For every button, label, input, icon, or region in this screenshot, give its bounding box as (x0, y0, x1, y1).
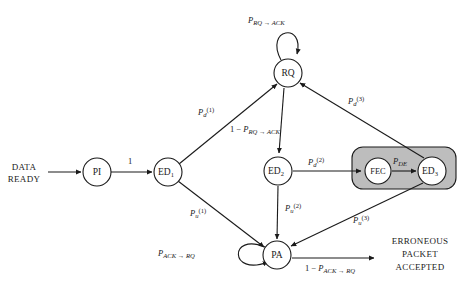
edge-label-ed3-to-pa: Pu(3) (352, 214, 369, 227)
edge-label-rq-to-ed2: 1 − PRQ → ACK (230, 124, 280, 135)
svg-text:1 − PRQ → ACK: 1 − PRQ → ACK (230, 124, 280, 135)
edge-ed1-to-rq (179, 84, 277, 164)
edge-label-pi-to-ed1: 1 (128, 156, 132, 166)
edge-ed2-to-pa (277, 186, 278, 239)
edge-rq-to-ed2 (279, 88, 284, 153)
node-ed3[interactable]: ED3 (418, 157, 446, 185)
edge-label-pa-to-erroneous: 1 − PACK → RQ (305, 263, 355, 274)
edge-label-ed2-to-pa: Pu(2) (284, 202, 301, 215)
edge-label-ed3-to-rq: Pd(3) (347, 95, 364, 108)
data-ready-line1: DATA (12, 162, 37, 172)
edge-rq-self-loop (277, 33, 298, 60)
svg-text:Pu(1): Pu(1) (189, 207, 206, 220)
edge-label-pa-to-erroneous-prefix: 1 − (305, 263, 318, 273)
erroneous-line3: ACCEPTED (396, 262, 445, 272)
node-pa[interactable]: PA (263, 241, 291, 269)
svg-text:1 − PACK → RQ: 1 − PACK → RQ (305, 263, 355, 274)
svg-text:Pu(3): Pu(3) (352, 214, 369, 227)
edge-label-ed3-to-pa-sup: (3) (362, 214, 370, 222)
edge-label-ed2-to-fec: Pd(2) (307, 156, 324, 169)
node-ed1[interactable]: ED1 (154, 158, 182, 186)
node-rq[interactable]: RQ (274, 59, 302, 87)
erroneous-line1: ERRONEOUS (392, 236, 449, 246)
edge-label-pa-to-erroneous-sub: ACK → RQ (323, 267, 356, 274)
svg-text:Pu(2): Pu(2) (284, 202, 301, 215)
edge-label-fec-to-ed3-sub: DE (397, 160, 407, 167)
edge-label-ed3-to-rq-sup: (3) (357, 95, 365, 103)
node-rq-label: RQ (281, 68, 294, 78)
edge-label-rq-self-loop: PRQ → ACK (247, 15, 285, 26)
state-transition-diagram: PI ED1 RQ ED2 FEC ED3 PA DATA R (0, 0, 469, 281)
edge-label-ed1-to-pa: Pu(1) (189, 207, 206, 220)
edge-label-ed2-to-pa-sup: (2) (294, 202, 302, 210)
node-pi-label: PI (93, 167, 101, 177)
edge-label-rq-to-ed2-prefix: 1 − (230, 124, 243, 134)
svg-text:PACK → RQ: PACK → RQ (157, 248, 195, 259)
edge-label-rq-to-ed2-sub: RQ → ACK (248, 128, 281, 135)
node-pi[interactable]: PI (83, 158, 111, 186)
edge-label-rq-self-loop-sub: RQ → ACK (252, 19, 285, 26)
svg-text:Pd(3): Pd(3) (347, 95, 364, 108)
edge-label-ed1-to-rq: Pd(1) (197, 106, 214, 119)
svg-text:PRQ → ACK: PRQ → ACK (247, 15, 285, 26)
edge-label-ed1-to-rq-sup: (1) (207, 106, 215, 114)
edge-label-ed1-to-pa-sup: (1) (199, 207, 207, 215)
svg-text:Pd(1): Pd(1) (197, 106, 214, 119)
diagram-canvas: PI ED1 RQ ED2 FEC ED3 PA DATA R (0, 0, 469, 281)
node-fec-label: FEC (370, 167, 386, 176)
svg-text:Pd(2): Pd(2) (307, 156, 324, 169)
edge-label-pa-self-loop: PACK → RQ (157, 248, 195, 259)
node-ed2[interactable]: ED2 (264, 157, 292, 185)
edge-label-pa-self-loop-sub: ACK → RQ (162, 252, 195, 259)
node-fec[interactable]: FEC (365, 158, 391, 184)
edge-label-ed2-to-fec-sup: (2) (317, 156, 325, 164)
node-pa-label: PA (271, 250, 282, 260)
erroneous-line2: PACKET (402, 249, 438, 259)
data-ready-line2: READY (8, 174, 41, 184)
